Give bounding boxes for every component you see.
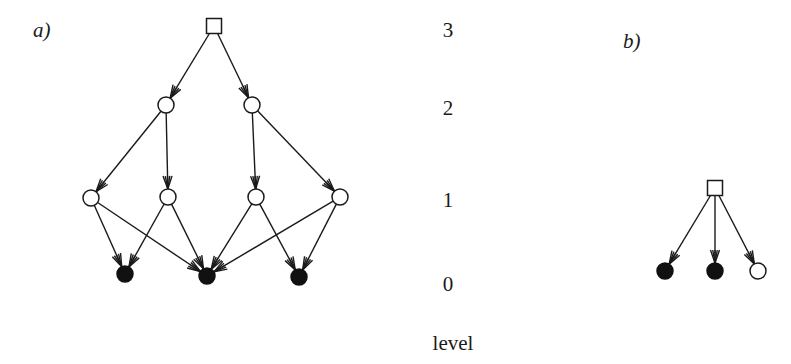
- level-graph-diagram: a) b) 3 2 1 0 level: [0, 0, 791, 364]
- edge-arrow: [260, 204, 295, 270]
- panel-b-label: b): [623, 29, 641, 53]
- filled-circle-node: [707, 263, 723, 279]
- panel-a-nodes: [83, 19, 348, 286]
- level-axis: 3 2 1 0 level: [433, 18, 474, 355]
- root-square-node: [207, 19, 222, 34]
- edge-arrow: [163, 113, 172, 189]
- level-axis-title: level: [433, 331, 474, 355]
- open-circle-node: [244, 97, 260, 113]
- root-square-node: [708, 181, 723, 196]
- edge-arrow: [129, 204, 164, 267]
- panel-b-edges: [669, 196, 754, 265]
- edge-arrow: [719, 196, 754, 264]
- edge-arrow: [211, 204, 252, 269]
- edge-arrow: [303, 204, 337, 270]
- edge-arrow: [172, 204, 204, 269]
- filled-circle-node: [291, 269, 307, 285]
- edge-arrow: [711, 196, 720, 264]
- edge-arrow: [669, 196, 710, 265]
- panel-a-edges: [94, 34, 336, 272]
- open-circle-node: [160, 189, 176, 205]
- level-tick-2: 2: [443, 96, 454, 120]
- edge-arrow: [98, 202, 201, 271]
- edge-arrow: [258, 111, 335, 191]
- edge-arrow: [251, 113, 260, 189]
- edge-arrow: [94, 205, 121, 266]
- level-tick-1: 1: [443, 188, 454, 212]
- open-circle-node: [83, 190, 99, 206]
- panel-b-nodes: [657, 181, 766, 280]
- filled-circle-node: [199, 268, 215, 284]
- filled-circle-node: [657, 263, 673, 279]
- edge-arrow: [218, 34, 249, 98]
- filled-circle-node: [117, 266, 133, 282]
- edge-arrow: [170, 34, 209, 99]
- open-circle-node: [248, 189, 264, 205]
- open-circle-node: [332, 189, 348, 205]
- panel-a-label: a): [33, 18, 51, 42]
- edge-arrow: [96, 111, 161, 192]
- open-circle-node: [158, 97, 174, 113]
- open-circle-node: [750, 263, 766, 279]
- level-tick-0: 0: [443, 272, 454, 296]
- level-tick-3: 3: [443, 18, 454, 42]
